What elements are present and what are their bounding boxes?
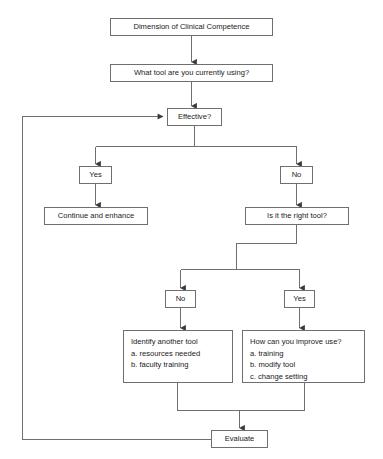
node-label: Continue and enhance [58,212,134,220]
node-what-tool-are-you-currently-using[interactable]: What tool are you currently using? [110,64,273,82]
flowchart-canvas: Dimension of Clinical Competence What to… [0,0,383,459]
node-label: What tool are you currently using? [134,69,249,77]
node-dimension-of-clinical-competence[interactable]: Dimension of Clinical Competence [110,18,273,36]
node-label: Is it the right tool? [267,212,327,220]
node-how-can-you-improve-use[interactable]: How can you improve use? a. training b. … [242,330,365,383]
node-label: Yes [293,295,305,303]
node-label: Effective? [178,113,211,121]
node-no-branch[interactable]: No [280,166,313,184]
node-line-4: c. change setting [250,371,357,383]
node-is-it-the-right-tool[interactable]: Is it the right tool? [245,207,349,225]
node-line-2: a. training [250,348,357,360]
node-line-1: Identify another tool [131,336,225,348]
node-effective[interactable]: Effective? [167,108,222,126]
node-label: Evaluate [225,435,255,443]
node-label: Dimension of Clinical Competence [133,23,249,31]
node-label: Yes [89,171,101,179]
edge-righttool-step [237,225,297,270]
edge-feedback-loop [23,117,212,440]
node-line-1: How can you improve use? [250,336,357,348]
node-continue-and-enhance[interactable]: Continue and enhance [44,207,148,225]
node-yes-branch-2[interactable]: Yes [284,290,315,308]
node-identify-another-tool[interactable]: Identify another tool a. resources neede… [123,330,233,383]
node-yes-branch[interactable]: Yes [79,166,112,184]
node-no-branch-2[interactable]: No [165,290,196,308]
node-label: No [292,171,302,179]
node-line-2: a. resources needed [131,348,225,360]
node-label: No [176,295,186,303]
node-line-3: b. modify tool [250,359,357,371]
node-line-3: b. faculty training [131,359,225,371]
node-evaluate[interactable]: Evaluate [211,430,268,448]
